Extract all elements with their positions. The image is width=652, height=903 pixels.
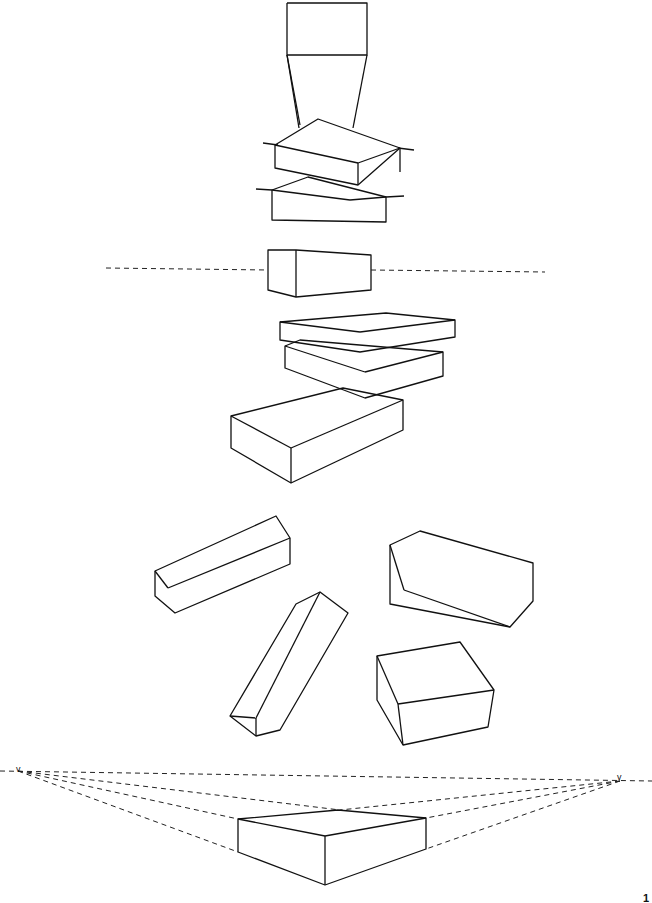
- page-number: 1: [643, 892, 649, 903]
- vp-left-label: v: [16, 764, 21, 774]
- two-point-perspective: [0, 771, 652, 885]
- perspective-drawing: v v 1: [0, 0, 652, 903]
- box-2: [256, 177, 404, 222]
- drawing-svg: v v 1: [0, 0, 652, 903]
- box-tilted-c: [230, 592, 348, 736]
- box-tilted-d: [377, 642, 494, 745]
- box-tilted-b: [390, 531, 533, 627]
- box-horizon: [106, 250, 545, 297]
- vp-right-label: v: [617, 772, 622, 782]
- box-tilted-a: [155, 516, 290, 613]
- box-4: [285, 340, 443, 398]
- box-5: [231, 388, 403, 483]
- box-1: [263, 119, 414, 185]
- tall-box-top: [287, 3, 367, 128]
